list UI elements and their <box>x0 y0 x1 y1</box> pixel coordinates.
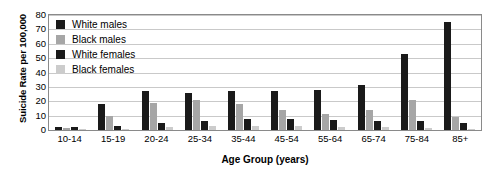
legend-swatch-icon <box>56 35 65 44</box>
y-tick-label: 80 <box>35 10 46 20</box>
bar <box>271 91 278 130</box>
y-tick-label: 0 <box>41 125 46 135</box>
y-axis-tick-labels: 80706050403020100 <box>20 14 46 131</box>
bar <box>468 129 475 130</box>
bar <box>98 104 105 130</box>
y-tick-label: 10 <box>35 111 46 121</box>
bar <box>209 126 216 130</box>
bar <box>366 110 373 130</box>
bar <box>358 85 365 130</box>
bar <box>252 126 259 130</box>
y-tick-label: 60 <box>35 39 46 49</box>
bar-group <box>179 15 222 130</box>
y-tick-label: 50 <box>35 53 46 63</box>
legend-label: White females <box>72 50 135 60</box>
bar <box>193 100 200 130</box>
bar <box>201 121 208 130</box>
bar <box>382 127 389 130</box>
legend-label: White males <box>72 20 127 30</box>
bar <box>55 127 62 130</box>
bar-group <box>351 15 394 130</box>
legend-label: Black males <box>72 35 126 45</box>
x-tick-label: 55-64 <box>308 133 351 144</box>
bar-group <box>135 15 178 130</box>
bar-group <box>265 15 308 130</box>
legend-item: White females <box>56 48 135 61</box>
legend-swatch-icon <box>56 20 65 29</box>
y-tick-label: 30 <box>35 82 46 92</box>
bar <box>417 121 424 130</box>
bar <box>142 91 149 130</box>
bar <box>452 117 459 130</box>
bar <box>425 128 432 130</box>
bar <box>401 54 408 130</box>
legend-swatch-icon <box>56 50 65 59</box>
x-tick-label: 45-54 <box>265 133 308 144</box>
bar-group <box>438 15 481 130</box>
chart-legend: White malesBlack malesWhite femalesBlack… <box>56 18 135 76</box>
legend-item: White males <box>56 18 135 31</box>
x-tick-label: 10-14 <box>48 133 91 144</box>
x-tick-label: 85+ <box>439 133 482 144</box>
bar <box>444 22 451 130</box>
suicide-rate-bar-chart: Suicide Rate per 100,000 807060504030201… <box>0 0 489 177</box>
x-axis-title: Age Group (years) <box>48 154 482 165</box>
bar <box>322 114 329 130</box>
bar <box>330 120 337 130</box>
bar <box>338 127 345 130</box>
x-tick-label: 75-84 <box>395 133 438 144</box>
bar <box>228 91 235 130</box>
y-tick-label: 40 <box>35 68 46 78</box>
legend-swatch-icon <box>56 65 65 74</box>
bar <box>460 123 467 130</box>
y-tick-label: 70 <box>35 25 46 35</box>
legend-item: Black females <box>56 63 135 76</box>
bar <box>374 121 381 130</box>
bar-group <box>308 15 351 130</box>
bar <box>185 93 192 130</box>
bar-group <box>395 15 438 130</box>
y-tick-label: 20 <box>35 97 46 107</box>
bar <box>71 127 78 130</box>
bar <box>79 129 86 130</box>
bar <box>114 126 121 130</box>
bar <box>295 126 302 130</box>
bar <box>166 127 173 130</box>
bar-group <box>222 15 265 130</box>
x-tick-label: 65-74 <box>352 133 395 144</box>
bar <box>236 104 243 130</box>
x-tick-label: 35-44 <box>222 133 265 144</box>
x-tick-label: 15-19 <box>91 133 134 144</box>
x-tick-label: 20-24 <box>135 133 178 144</box>
bar <box>158 123 165 130</box>
bar <box>63 128 70 130</box>
bar <box>244 119 251 131</box>
bar <box>409 100 416 130</box>
bar <box>106 116 113 130</box>
legend-label: Black females <box>72 65 134 75</box>
x-tick-label: 25-34 <box>178 133 221 144</box>
bar <box>279 110 286 130</box>
bar <box>287 119 294 131</box>
legend-item: Black males <box>56 33 135 46</box>
bar <box>122 129 129 130</box>
bar <box>314 90 321 130</box>
bar <box>150 103 157 130</box>
x-axis-tick-labels: 10-1415-1920-2425-3435-4445-5455-6465-74… <box>48 133 482 144</box>
